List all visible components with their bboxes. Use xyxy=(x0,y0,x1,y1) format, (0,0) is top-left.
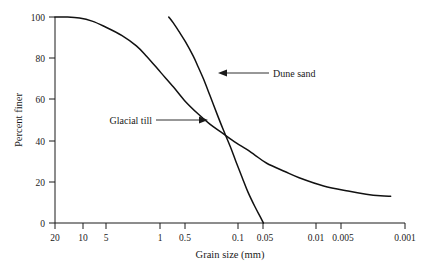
x-tick-label-1: 1 xyxy=(158,233,163,243)
y-tick-label-0: 0 xyxy=(40,219,45,229)
glacial-till-annotation-label: Glacial till xyxy=(110,115,153,126)
x-tick-label-0_1: 0.1 xyxy=(232,233,244,243)
x-tick-label-0_001: 0.001 xyxy=(394,233,416,243)
x-tick-label-0_005: 0.005 xyxy=(332,233,354,243)
x-tick-label-0_01: 0.01 xyxy=(308,233,325,243)
x-tick-label-5: 5 xyxy=(104,233,109,243)
chart-background xyxy=(0,0,433,269)
y-tick-label-100: 100 xyxy=(31,13,46,23)
y-tick-label-20: 20 xyxy=(36,178,46,188)
x-tick-label-0_5: 0.5 xyxy=(179,233,191,243)
grain-size-distribution-chart: 100 80 60 40 20 0 Percent finer 20 10 5 xyxy=(0,0,433,269)
y-tick-label-80: 80 xyxy=(36,54,46,64)
chart-container: 100 80 60 40 20 0 Percent finer 20 10 5 xyxy=(0,0,433,269)
x-tick-label-10: 10 xyxy=(78,233,88,243)
x-tick-label-20: 20 xyxy=(50,233,60,243)
dune-sand-annotation-label: Dune sand xyxy=(273,68,316,79)
y-tick-label-60: 60 xyxy=(36,95,46,105)
y-axis-title: Percent finer xyxy=(13,93,24,147)
y-tick-label-40: 40 xyxy=(36,137,46,147)
x-axis-title: Grain size (mm) xyxy=(196,249,265,261)
x-tick-label-0_05: 0.05 xyxy=(257,233,274,243)
